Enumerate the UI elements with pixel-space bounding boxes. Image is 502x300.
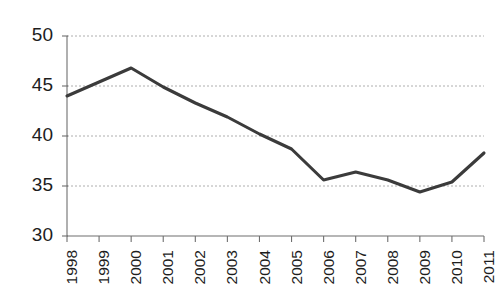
series-line-series-1 (67, 68, 484, 192)
x-tick-label-2010: 2010 (448, 250, 465, 285)
x-tick-label-1998: 1998 (63, 250, 80, 284)
x-tick-label-2004: 2004 (256, 250, 273, 285)
x-tick-label-2011: 2011 (480, 250, 497, 283)
x-tick-label-2003: 2003 (223, 250, 240, 284)
y-tick-label-45: 45 (32, 74, 53, 95)
x-tick-label-2007: 2007 (352, 250, 369, 284)
gridlines (67, 36, 484, 186)
y-tick-labels: 3035404550 (32, 24, 53, 245)
x-tick-label-2009: 2009 (416, 250, 433, 284)
x-tick-label-2008: 2008 (384, 250, 401, 284)
x-tick-label-2000: 2000 (127, 250, 144, 285)
x-tick-label-1999: 1999 (95, 250, 112, 284)
chart-canvas: 3035404550 19981999200020012002200320042… (0, 0, 502, 300)
x-tick-label-2005: 2005 (288, 250, 305, 284)
line-chart: 3035404550 19981999200020012002200320042… (0, 0, 502, 300)
x-tick-marks (67, 236, 484, 242)
y-tick-label-50: 50 (32, 24, 53, 45)
x-tick-labels: 1998199920002001200220032004200520062007… (63, 250, 497, 285)
x-tick-label-2002: 2002 (191, 250, 208, 284)
data-series (67, 68, 484, 192)
y-tick-label-30: 30 (32, 224, 53, 245)
y-tick-label-35: 35 (32, 174, 53, 195)
y-tick-label-40: 40 (32, 124, 53, 145)
x-tick-label-2001: 2001 (159, 250, 176, 284)
x-tick-label-2006: 2006 (320, 250, 337, 284)
